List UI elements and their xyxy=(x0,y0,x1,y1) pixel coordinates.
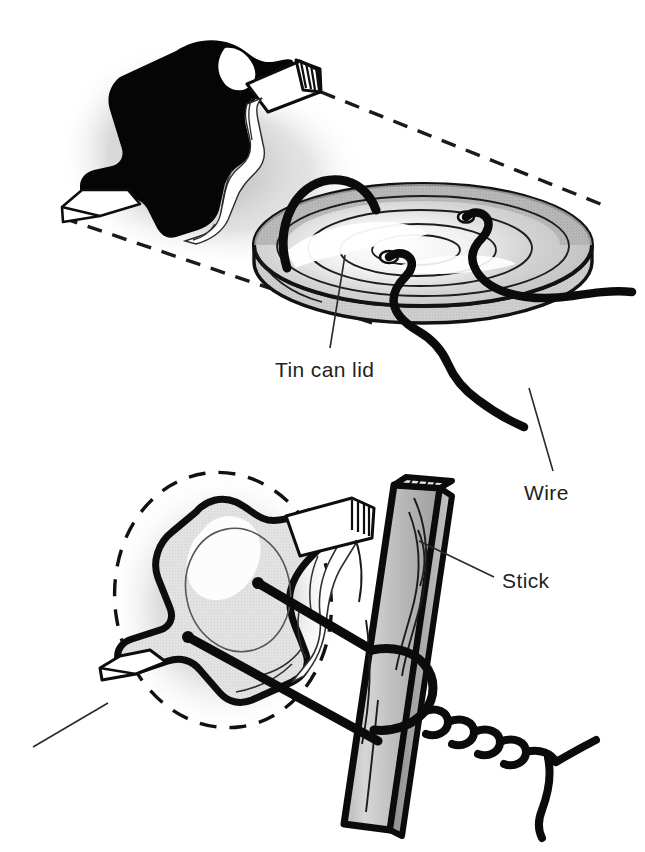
illustration-figure: Tin can lid xyxy=(0,0,645,852)
wire-lower-anchor xyxy=(182,631,194,643)
diagram-canvas: Tin can lid xyxy=(0,0,645,852)
label-wire: Wire xyxy=(524,481,569,504)
label-tin-can-lid: Tin can lid xyxy=(275,358,374,381)
wire-upper-anchor xyxy=(252,577,264,589)
label-stick: Stick xyxy=(502,569,550,592)
